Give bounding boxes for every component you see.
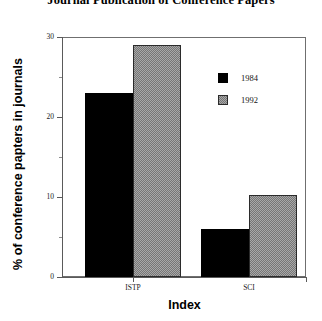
- legend-swatch-1984-icon: [218, 73, 228, 83]
- x-tick-label-istp: ISTP: [98, 283, 168, 292]
- legend-label-1992: 1992: [241, 95, 258, 105]
- x-tick-label-sci: SCI: [214, 283, 284, 292]
- legend-swatch-1992-icon: [218, 95, 228, 105]
- bar-istp-1984: [85, 93, 133, 277]
- bar-istp-1992: [133, 45, 181, 277]
- chart-legend: 1984 1992: [218, 68, 298, 112]
- y-tick-label-20: 20: [14, 113, 54, 121]
- y-tick-label-10: 10: [14, 193, 54, 201]
- x-tick-mark-2: [306, 278, 307, 282]
- y-axis-title: % of conference papters in journals: [9, 44, 27, 284]
- bar-sci-1992: [249, 195, 297, 277]
- x-axis-title: Index: [62, 298, 307, 312]
- y-tick-label-0: 0: [14, 273, 54, 281]
- legend-item-1992: 1992: [218, 90, 298, 109]
- bar-sci-1984: [201, 229, 249, 277]
- y-axis-title-wrapper: % of conference papters in journals: [9, 44, 27, 284]
- legend-label-1984: 1984: [241, 73, 258, 83]
- x-axis-line: [62, 277, 307, 278]
- chart-title: Journal Publication of Conference Papers: [0, 0, 322, 7]
- x-tick-mark-1: [133, 278, 134, 282]
- y-tick-label-30: 30: [14, 33, 54, 41]
- legend-item-1984: 1984: [218, 68, 298, 87]
- bar-chart-figure: Journal Publication of Conference Papers…: [0, 0, 322, 321]
